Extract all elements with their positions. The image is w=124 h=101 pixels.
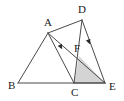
segment-ac xyxy=(48,33,74,83)
vertex-label-b: B xyxy=(8,79,15,91)
vertex-label-f: F xyxy=(74,42,80,54)
geometry-canvas: A B C D E F xyxy=(0,0,124,101)
parallel-tick-icon-ac xyxy=(58,44,62,50)
vertex-label-a: A xyxy=(44,16,52,28)
segment-ad xyxy=(48,20,82,33)
vertex-label-c: C xyxy=(71,86,78,98)
segment-ab xyxy=(18,33,48,83)
vertex-label-d: D xyxy=(78,3,86,15)
parallel-tick-icon-de xyxy=(86,39,91,45)
vertex-label-e: E xyxy=(109,80,116,92)
geometry-figure: A B C D E F xyxy=(0,0,124,101)
